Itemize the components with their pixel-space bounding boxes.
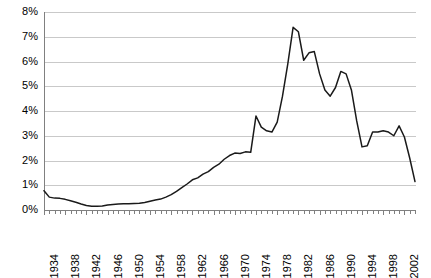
x-tick: [304, 211, 305, 214]
x-tick: [336, 211, 337, 214]
x-tick: [76, 211, 77, 214]
x-tick: [208, 211, 209, 214]
x-tick: [182, 211, 183, 214]
x-tick: [134, 211, 135, 214]
x-tick: [362, 211, 363, 215]
x-tick: [81, 211, 82, 214]
x-tick: [245, 211, 246, 214]
x-tick: [283, 211, 284, 214]
x-tick-label: 1990: [346, 254, 357, 278]
x-tick: [214, 211, 215, 215]
x-tick: [177, 211, 178, 214]
x-tick: [415, 211, 416, 214]
x-tick: [187, 211, 188, 214]
x-tick: [171, 211, 172, 215]
x-tick: [92, 211, 93, 214]
x-tick: [145, 211, 146, 214]
x-tick-label: 1966: [219, 254, 230, 278]
x-tick: [383, 211, 384, 215]
data-series-line: [44, 27, 415, 206]
x-tick: [235, 211, 236, 215]
x-tick: [230, 211, 231, 214]
x-tick: [309, 211, 310, 214]
x-tick-label: 1978: [282, 254, 293, 278]
x-tick: [219, 211, 220, 214]
x-tick: [129, 211, 130, 215]
x-tick: [272, 211, 273, 214]
x-tick-label: 1954: [155, 254, 166, 278]
x-tick: [161, 211, 162, 214]
x-tick: [139, 211, 140, 214]
x-tick: [55, 211, 56, 214]
x-tick-label: 1946: [113, 254, 124, 278]
x-tick: [44, 211, 45, 215]
x-tick: [166, 211, 167, 214]
x-tick: [97, 211, 98, 214]
x-tick: [261, 211, 262, 214]
x-tick-label: 1962: [197, 254, 208, 278]
x-tick: [351, 211, 352, 214]
x-tick-label: 1974: [261, 254, 272, 278]
x-tick: [118, 211, 119, 214]
x-tick: [394, 211, 395, 214]
x-tick: [410, 211, 411, 214]
x-tick-label: 1998: [388, 254, 399, 278]
x-tick: [113, 211, 114, 214]
x-tick: [357, 211, 358, 214]
x-tick: [293, 211, 294, 214]
x-tick: [288, 211, 289, 214]
x-tick: [256, 211, 257, 215]
x-tick-label: 2002: [409, 254, 420, 278]
x-tick: [378, 211, 379, 214]
x-tick: [251, 211, 252, 214]
x-tick: [150, 211, 151, 215]
x-tick: [71, 211, 72, 214]
x-tick-label: 1950: [134, 254, 145, 278]
x-tick: [124, 211, 125, 214]
x-tick: [373, 211, 374, 214]
x-tick: [325, 211, 326, 214]
x-axis: 1934193819421946195019541958196219661970…: [0, 216, 431, 257]
x-tick: [341, 211, 342, 215]
x-tick-label: 1986: [325, 254, 336, 278]
x-tick: [224, 211, 225, 214]
x-tick: [267, 211, 268, 214]
x-tick: [86, 211, 87, 215]
x-tick: [320, 211, 321, 215]
x-tick: [192, 211, 193, 215]
x-tick: [404, 211, 405, 215]
x-tick: [330, 211, 331, 214]
x-tick: [108, 211, 109, 215]
x-tick: [367, 211, 368, 214]
x-tick: [203, 211, 204, 214]
x-tick-label: 1942: [91, 254, 102, 278]
x-tick-label: 1994: [367, 254, 378, 278]
x-tick: [314, 211, 315, 214]
x-tick: [65, 211, 66, 215]
x-tick: [155, 211, 156, 214]
x-tick: [102, 211, 103, 214]
x-tick: [277, 211, 278, 215]
x-tick: [60, 211, 61, 214]
x-tick-label: 1982: [303, 254, 314, 278]
x-tick: [389, 211, 390, 214]
x-tick: [399, 211, 400, 214]
x-tick-label: 1970: [240, 254, 251, 278]
x-tick: [240, 211, 241, 214]
x-tick: [198, 211, 199, 214]
x-tick: [298, 211, 299, 215]
x-tick-label: 1938: [70, 254, 81, 278]
x-tick-label: 1934: [49, 254, 60, 278]
x-tick: [49, 211, 50, 214]
x-tick: [346, 211, 347, 214]
x-tick-label: 1958: [176, 254, 187, 278]
